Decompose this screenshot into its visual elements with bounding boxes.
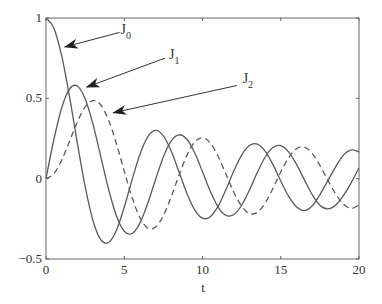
x-axis-label: t bbox=[201, 280, 205, 295]
annotation-arrow-j1 bbox=[87, 58, 165, 87]
x-tick-label: 10 bbox=[196, 262, 209, 277]
curve-annotations: J0J1J2 bbox=[65, 22, 253, 112]
curve-j1 bbox=[46, 85, 359, 234]
x-tick-label: 20 bbox=[353, 262, 366, 277]
curve-j0 bbox=[46, 18, 359, 243]
curve-j2 bbox=[46, 101, 359, 229]
annotation-label-j1: J1 bbox=[169, 47, 179, 66]
axis-ticks bbox=[46, 18, 359, 259]
plot-curves bbox=[46, 18, 359, 243]
y-tick-labels: −0.500.51 bbox=[18, 10, 42, 266]
plot-frame bbox=[46, 18, 359, 259]
x-tick-label: 5 bbox=[121, 262, 128, 277]
y-tick-label: 1 bbox=[36, 10, 43, 25]
annotation-label-j0: J0 bbox=[121, 22, 131, 41]
annotation-label-j2: J2 bbox=[243, 71, 253, 90]
y-tick-label: −0.5 bbox=[18, 251, 42, 266]
x-tick-labels: 05101520 bbox=[43, 262, 366, 277]
annotation-arrow-j2 bbox=[113, 85, 237, 112]
y-tick-label: 0 bbox=[36, 171, 43, 186]
annotation-arrow-j0 bbox=[65, 32, 120, 46]
x-tick-label: 0 bbox=[43, 262, 50, 277]
y-tick-label: 0.5 bbox=[26, 90, 42, 105]
x-tick-label: 15 bbox=[274, 262, 287, 277]
bessel-chart: 05101520 −0.500.51 t J0J1J2 bbox=[0, 0, 382, 304]
